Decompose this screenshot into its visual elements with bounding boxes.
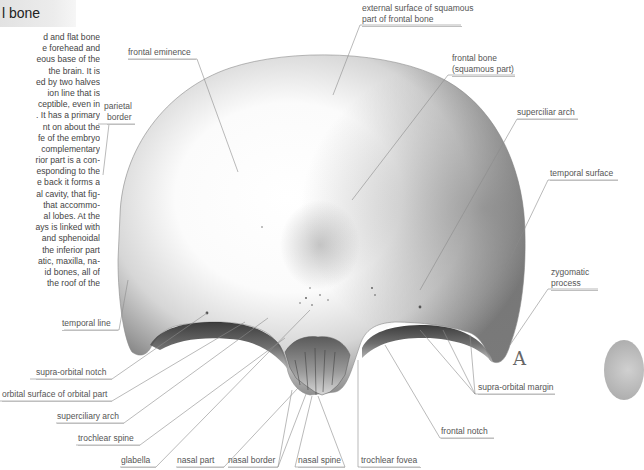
label-glabella: glabella	[121, 455, 156, 468]
label-parietal-border-line2: border	[107, 112, 135, 125]
label-superciliary-arch: superciliary arch	[57, 411, 124, 424]
label-frontal-bone-line1: frontal bone	[452, 53, 497, 64]
label-external-surface-line1: external surface of squamous	[362, 3, 474, 14]
label-supra-orbital-margin: supra-orbital margin	[478, 382, 555, 395]
label-frontal-eminence: frontal eminence	[128, 47, 196, 60]
label-orbital-surface: orbital surface of orbital part	[2, 389, 112, 402]
label-trochlear-fovea: trochlear fovea	[361, 455, 421, 468]
label-temporal-surface: temporal surface	[550, 168, 618, 181]
label-supra-orbital-notch: supra-orbital notch	[36, 367, 112, 380]
label-superciliar-arch: superciliar arch	[517, 107, 578, 120]
label-parietal-border-line1: parietal	[104, 101, 132, 112]
label-frontal-bone-line2: (squamous part)	[452, 64, 515, 77]
label-trochlear-spine: trochlear spine	[78, 433, 140, 446]
label-external-surface-line2: part of frontal bone	[362, 14, 462, 27]
label-nasal-part: nasal part	[177, 455, 224, 468]
label-temporal-line: temporal line	[62, 318, 118, 331]
figure-letter: A	[513, 348, 526, 369]
label-nasal-spine: nasal spine	[298, 455, 345, 468]
label-frontal-notch: frontal notch	[441, 426, 494, 439]
label-nasal-border: nasal border	[228, 455, 278, 468]
label-zygomatic-process-line1: zygomatic	[551, 267, 589, 278]
side-thumbnail-disc	[604, 340, 644, 400]
label-zygomatic-process-line2: process	[551, 278, 598, 291]
